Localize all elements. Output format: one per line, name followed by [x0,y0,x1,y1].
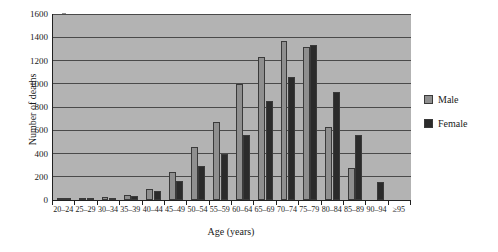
x-tick-label: 20–24 [53,206,73,214]
bar-female [221,154,228,200]
bar-male [236,84,243,200]
x-tick-label: 60–64 [232,206,252,214]
x-tick-mark [410,200,411,205]
bar-female [176,181,183,200]
y-tick-label: 800 [14,103,48,112]
bar-male [258,57,265,200]
bar-female [131,196,138,200]
bars-layer [53,14,411,200]
x-tick-label: 55–59 [210,206,230,214]
bar-group [254,14,276,200]
legend-swatch-icon [424,119,433,128]
bar-group [299,14,321,200]
bar-female [355,135,362,200]
y-axis-tick-labels: 02004006008001000120014001600 [14,14,48,200]
x-axis-title: Age (years) [52,226,410,237]
bar-male [213,122,220,200]
bar-female [377,182,384,200]
x-tick-label: 50–54 [187,206,207,214]
y-tick-label: 400 [14,149,48,158]
y-tick-label: 1600 [14,10,48,19]
legend-label: Female [438,118,467,129]
x-tick-label: 35–39 [120,206,140,214]
bar-male [124,195,131,200]
bar-female [288,77,295,200]
bar-group [210,14,232,200]
y-tick-label: 1200 [14,56,48,65]
plot-area [52,14,411,201]
bar-female [109,198,116,200]
x-tick-label: 25–29 [76,206,96,214]
bar-group [75,14,97,200]
y-tick-label: 1400 [14,33,48,42]
chart-legend: MaleFemale [424,94,467,142]
bar-group [187,14,209,200]
legend-item-male[interactable]: Male [424,94,467,105]
bar-female [154,191,161,200]
bar-male [303,47,310,200]
bar-group [120,14,142,200]
bar-male [348,168,355,200]
bar-female [266,101,273,200]
bar-group [344,14,366,200]
bar-female [243,135,250,200]
bar-male [191,147,198,200]
x-tick-label: 30–34 [98,206,118,214]
x-tick-label: 85–89 [344,206,364,214]
legend-item-female[interactable]: Female [424,118,467,129]
bar-group [322,14,344,200]
bar-male [281,41,288,200]
y-tick-label: 0 [14,196,48,205]
x-tick-label: 80–84 [322,206,342,214]
legend-swatch-icon [424,95,433,104]
bar-group [366,14,388,200]
x-tick-label: 90–94 [366,206,386,214]
bar-male [325,127,332,200]
bar-group [232,14,254,200]
x-tick-label: 45–49 [165,206,185,214]
bar-group [98,14,120,200]
bar-group [389,14,411,200]
bar-female [198,166,205,200]
bar-female [333,92,340,200]
x-tick-label: 70–74 [277,206,297,214]
bar-chart: Number of deaths 02004006008001000120014… [0,0,498,252]
bar-male [169,172,176,200]
bar-group [143,14,165,200]
x-tick-label: ≥95 [393,206,405,214]
legend-label: Male [438,94,459,105]
bar-male [79,198,86,200]
bar-female [64,198,71,200]
bar-female [310,45,317,200]
bar-male [57,198,64,200]
x-tick-label: 75–79 [299,206,319,214]
bar-group [53,14,75,200]
y-tick-label: 200 [14,172,48,181]
x-tick-mark [388,200,389,205]
bar-group [165,14,187,200]
x-tick-label: 65–69 [255,206,275,214]
bar-male [146,189,153,200]
y-tick-label: 1000 [14,79,48,88]
bar-male [102,197,109,200]
y-tick-label: 600 [14,126,48,135]
bar-group [277,14,299,200]
bar-female [87,198,94,200]
x-tick-label: 40–44 [143,206,163,214]
